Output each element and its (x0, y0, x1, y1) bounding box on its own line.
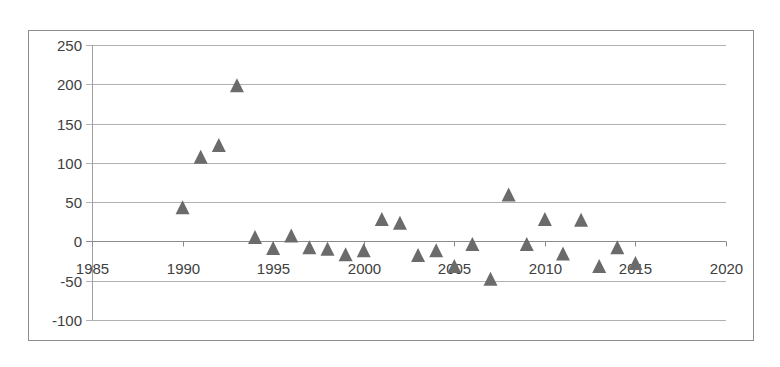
scatter-chart: 250200150100500-50-100 19851990199520002… (0, 0, 780, 367)
x-tick-label: 2020 (710, 260, 743, 277)
triangle-marker-icon (266, 241, 280, 255)
triangle-marker-icon (520, 237, 534, 251)
gridlines (86, 46, 726, 321)
triangle-marker-icon (411, 248, 425, 262)
triangle-marker-icon (230, 78, 244, 92)
x-tick-label: 2000 (348, 260, 381, 277)
triangle-marker-icon (248, 230, 262, 244)
y-tick-label: 50 (65, 194, 82, 211)
triangle-marker-icon (429, 243, 443, 257)
triangle-marker-icon (302, 240, 316, 254)
triangle-marker-icon (610, 240, 624, 254)
x-tick-label: 1985 (76, 260, 109, 277)
y-tick-label: 250 (57, 37, 82, 54)
y-tick-label: 0 (74, 233, 82, 250)
triangle-marker-icon (212, 138, 226, 152)
x-tick-label: 2010 (529, 260, 562, 277)
y-axis-labels: 250200150100500-50-100 (52, 37, 82, 329)
triangle-marker-icon (284, 228, 298, 242)
x-tick-label: 1995 (257, 260, 290, 277)
triangle-marker-icon (592, 259, 606, 273)
y-tick-label: 200 (57, 76, 82, 93)
y-tick-label: -100 (52, 312, 82, 329)
triangle-marker-icon (393, 216, 407, 230)
data-points (176, 78, 643, 285)
triangle-marker-icon (484, 272, 498, 286)
triangle-marker-icon (538, 212, 552, 226)
triangle-marker-icon (194, 150, 208, 164)
triangle-marker-icon (465, 237, 479, 251)
triangle-marker-icon (574, 213, 588, 227)
triangle-marker-icon (556, 247, 570, 261)
x-axis-labels: 19851990199520002005201020152020 (76, 260, 743, 277)
triangle-marker-icon (357, 243, 371, 257)
triangle-marker-icon (320, 242, 334, 256)
triangle-marker-icon (502, 188, 516, 202)
x-tick-label: 1990 (167, 260, 200, 277)
triangle-marker-icon (375, 212, 389, 226)
y-tick-label: 150 (57, 116, 82, 133)
axes (86, 45, 727, 320)
y-tick-label: 100 (57, 155, 82, 172)
triangle-marker-icon (339, 247, 353, 261)
